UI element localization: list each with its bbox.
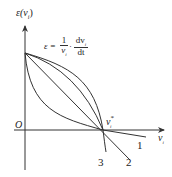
formula-lhs: ε = (44, 42, 56, 51)
y-axis-label: ε(vi) (16, 8, 33, 20)
formula-frac-1: 1 vi (60, 36, 68, 57)
diagram-graphics (0, 0, 172, 177)
curve-1 (25, 53, 146, 137)
intersection-label: v*i (106, 116, 111, 129)
curve-3 (25, 53, 106, 152)
curve-3-label: 3 (98, 157, 104, 168)
formula-dot: · (69, 42, 72, 51)
diagram-canvas: ε(vi) ε = 1 vi · dvi dt O v*i vi 1 2 3 (0, 0, 172, 177)
formula-frac-2: dvi dt (74, 36, 88, 57)
curve-2-label: 2 (126, 157, 132, 168)
origin-label: O (15, 120, 22, 130)
curve-2 (25, 53, 130, 160)
x-axis-label: vi (158, 133, 164, 145)
curve-1-label: 1 (137, 140, 143, 151)
